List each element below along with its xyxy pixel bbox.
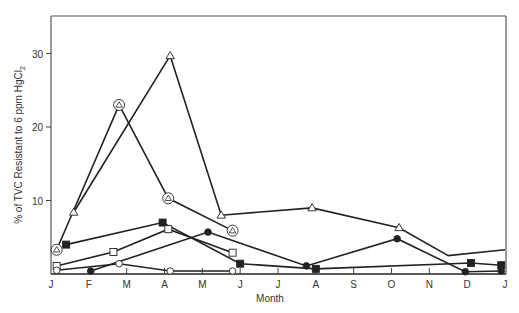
series-line-filled-triangle-then-open-triangle [170,56,505,256]
open-circle-marker [116,260,123,267]
series-line-circled-open-triangle [57,105,233,250]
x-tick-label: F [86,279,92,290]
x-tick-label: D [464,279,471,290]
filled-circle-marker [498,268,505,275]
series-line-open-triangle [74,56,170,213]
circled-triangle-marker [227,225,238,236]
y-tick-label: 20 [32,122,44,133]
open-triangle-marker [166,52,174,59]
x-tick-label: O [388,279,396,290]
x-tick-label: J [49,279,54,290]
open-circle-marker [53,267,60,274]
x-tick-label: M [198,279,206,290]
x-tick-label: N [426,279,433,290]
circled-triangle-marker [51,244,62,255]
series-line-filled-square [66,223,501,269]
open-triangle-marker [70,208,78,215]
filled-square-marker [467,259,474,266]
x-tick-label: M [122,279,130,290]
y-axis-ticks: 102030 [32,49,51,207]
y-tick-label: 10 [32,196,44,207]
x-tick-label: J [238,279,243,290]
x-tick-label: J [276,279,281,290]
x-axis-ticks: JFMAMJJASONDJ [49,268,508,290]
filled-circle-marker [205,229,212,236]
circled-triangle-marker [114,99,125,110]
x-axis-title: Month [256,293,284,304]
open-square-marker [110,248,117,255]
open-circle-marker [229,268,236,275]
filled-circle-marker [394,235,401,242]
series-markers [51,52,505,276]
series-line-filled-circle [91,232,501,272]
filled-square-marker [63,241,70,248]
filled-circle-marker [87,268,94,275]
x-tick-label: J [503,279,508,290]
filled-circle-marker [462,268,469,275]
filled-square-marker [312,265,319,272]
circled-triangle-marker [163,193,174,204]
open-square-marker [229,249,236,256]
filled-square-marker [237,260,244,267]
chart: 102030 JFMAMJJASONDJ Month % of TVC Resi… [0,0,519,313]
series-lines [57,56,505,272]
open-circle-marker [167,268,174,275]
x-tick-label: A [161,279,168,290]
x-tick-label: A [312,279,319,290]
filled-circle-marker [303,263,310,270]
y-axis-title: % of TVC Resistant to 6 ppm HgCl2 [13,66,26,224]
y-tick-label: 30 [32,49,44,60]
open-triangle-marker [308,204,316,211]
open-square-marker [165,226,172,233]
plot-frame [51,16,506,274]
x-tick-label: S [350,279,357,290]
filled-square-marker [159,219,166,226]
series-line-open-circle [57,264,233,271]
